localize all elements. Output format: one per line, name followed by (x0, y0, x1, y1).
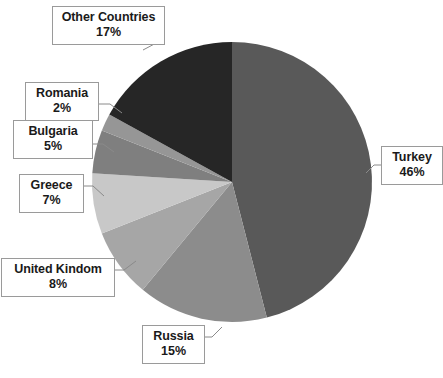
callout-label: Greece (25, 178, 78, 193)
callout-romania[interactable]: Romania 2% (25, 82, 99, 121)
callout-value: 2% (31, 101, 93, 116)
callout-value: 15% (148, 344, 199, 359)
callout-label: Turkey (387, 150, 437, 165)
callout-russia[interactable]: Russia 15% (142, 325, 205, 364)
callout-label: Other Countries (58, 10, 159, 25)
callout-other-countries[interactable]: Other Countries 17% (52, 6, 165, 45)
callout-value: 5% (19, 139, 87, 154)
callout-label: Russia (148, 329, 199, 344)
callout-label: United Kindom (7, 262, 109, 277)
leader-line-russia (205, 327, 222, 337)
callout-value: 46% (387, 165, 437, 180)
callout-label: Romania (31, 86, 93, 101)
callout-value: 8% (7, 277, 109, 292)
callout-bulgaria[interactable]: Bulgaria 5% (13, 120, 93, 159)
callout-greece[interactable]: Greece 7% (19, 174, 84, 213)
callout-value: 7% (25, 193, 78, 208)
pie-slice-group (92, 42, 372, 322)
callout-turkey[interactable]: Turkey 46% (381, 146, 443, 185)
callout-united-kindom[interactable]: United Kindom 8% (1, 258, 115, 297)
callout-label: Bulgaria (19, 124, 87, 139)
callout-value: 17% (58, 25, 159, 40)
